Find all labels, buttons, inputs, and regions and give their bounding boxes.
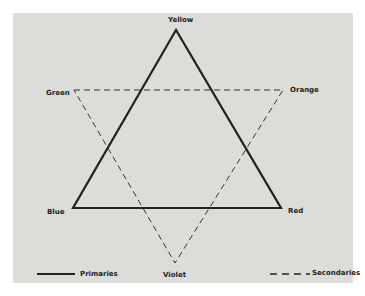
label-green: Green — [46, 89, 70, 97]
legend-primaries-label: Primaries — [80, 270, 118, 278]
color-star-diagram: Yellow Green Orange Blue Red Violet Prim… — [0, 0, 365, 296]
legend-secondaries-label: Secondaries — [312, 269, 360, 277]
label-yellow: Yellow — [167, 16, 194, 24]
label-violet: Violet — [163, 271, 187, 279]
secondaries-triangle — [74, 90, 283, 263]
label-blue: Blue — [47, 208, 65, 216]
label-red: Red — [288, 207, 303, 215]
label-orange: Orange — [290, 86, 319, 94]
primaries-triangle — [73, 30, 281, 208]
